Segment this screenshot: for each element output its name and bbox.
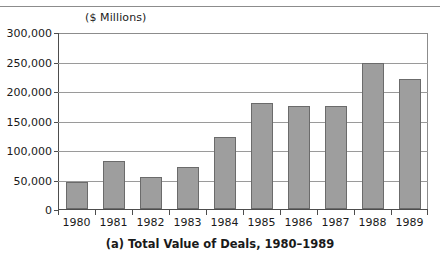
top-divider-rule xyxy=(0,6,440,7)
y-axis-tick-label: 250,000 xyxy=(7,58,53,69)
x-axis-label-1983: 1983 xyxy=(174,216,202,230)
x-axis-label-1986: 1986 xyxy=(285,216,313,230)
y-axis-units-label: ($ Millions) xyxy=(85,11,146,24)
y-axis-tick-label: 150,000 xyxy=(7,117,53,128)
x-axis-tick xyxy=(206,210,207,215)
x-axis-label-1988: 1988 xyxy=(359,216,387,230)
figure: ($ Millions) 050,000100,000150,000200,00… xyxy=(0,0,440,258)
x-axis-label-1985: 1985 xyxy=(248,216,276,230)
x-axis-tick xyxy=(243,210,244,215)
x-axis-tick xyxy=(354,210,355,215)
bar-1989 xyxy=(399,79,421,209)
bar-1988 xyxy=(362,63,384,209)
x-axis-label-1980: 1980 xyxy=(63,216,91,230)
y-axis-tick-labels: 050,000100,000150,000200,000250,000300,0… xyxy=(0,33,52,210)
y-axis-tick-label: 0 xyxy=(45,205,52,216)
figure-caption: (a) Total Value of Deals, 1980–1989 xyxy=(0,237,440,251)
x-axis-label-1987: 1987 xyxy=(322,216,350,230)
x-axis-tick xyxy=(95,210,96,215)
x-axis-tick xyxy=(58,210,59,215)
x-axis-tick xyxy=(391,210,392,215)
x-axis-ticks xyxy=(58,210,428,215)
x-axis-label-1981: 1981 xyxy=(100,216,128,230)
x-axis-tick xyxy=(169,210,170,215)
x-axis-tick xyxy=(427,210,428,215)
bar-1981 xyxy=(103,161,125,209)
x-axis-tick xyxy=(280,210,281,215)
x-axis-category-labels: 1980198119821983198419851986198719881989 xyxy=(58,216,428,230)
x-axis-tick xyxy=(317,210,318,215)
bar-1985 xyxy=(251,103,273,209)
y-axis-tick-label: 300,000 xyxy=(7,28,53,39)
bar-1982 xyxy=(140,177,162,209)
bar-1980 xyxy=(66,182,88,209)
y-axis-tick-label: 50,000 xyxy=(14,176,53,187)
y-axis-tick-label: 200,000 xyxy=(7,87,53,98)
bar-1986 xyxy=(288,106,310,209)
x-axis-label-1984: 1984 xyxy=(211,216,239,230)
bar-series xyxy=(58,33,428,210)
y-axis-tick-label: 100,000 xyxy=(7,146,53,157)
x-axis-tick xyxy=(132,210,133,215)
bar-1984 xyxy=(214,137,236,209)
plot-area xyxy=(58,33,428,210)
bar-1983 xyxy=(177,167,199,209)
x-axis-label-1989: 1989 xyxy=(396,216,424,230)
x-axis-label-1982: 1982 xyxy=(137,216,165,230)
bar-1987 xyxy=(325,106,347,209)
